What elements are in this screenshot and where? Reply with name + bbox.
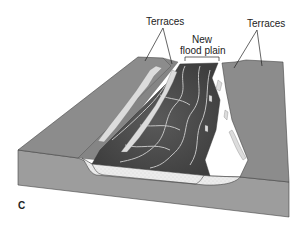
terraces-right-label: Terraces — [247, 18, 285, 29]
river-terrace-block-diagram — [0, 0, 304, 226]
flood-plain-bracket — [185, 57, 219, 61]
new-flood-plain-label-line1: New — [192, 34, 212, 45]
right-terrace-surface — [222, 60, 289, 182]
new-flood-plain-label-line2: flood plain — [180, 45, 226, 56]
terraces-left-label: Terraces — [146, 16, 184, 27]
panel-letter: C — [18, 200, 25, 211]
